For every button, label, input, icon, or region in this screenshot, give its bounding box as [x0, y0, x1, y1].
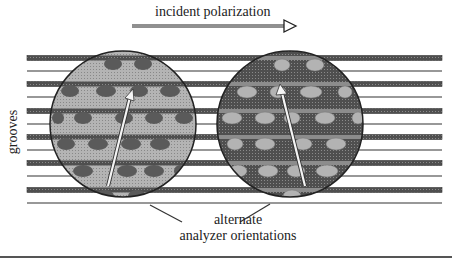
analyzer-label-line2: analyzer orientations — [168, 228, 308, 244]
bottom-divider — [0, 256, 452, 258]
grooves-label: grooves — [5, 110, 21, 154]
incident-polarization-label: incident polarization — [155, 4, 270, 20]
left-analyzer-circle — [50, 51, 200, 202]
incident-polarization-arrow-icon — [132, 20, 296, 32]
analyzer-orientations-label: alternate analyzer orientations — [168, 212, 308, 244]
analyzer-label-line1: alternate — [168, 212, 308, 228]
right-analyzer-circle — [215, 51, 365, 202]
